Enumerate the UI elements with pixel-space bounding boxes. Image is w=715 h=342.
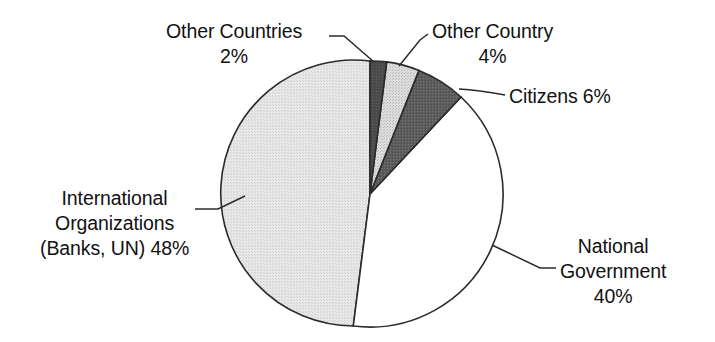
slice-label-international-organizations-line3: (Banks, UN) 48% — [40, 236, 189, 261]
slice-label-citizens: Citizens 6% — [509, 84, 611, 109]
slice-label-international-organizations: International Organizations (Banks, UN) … — [40, 186, 189, 261]
slice-label-other-countries-value: 2% — [166, 44, 302, 69]
slice-label-other-countries-name: Other Countries — [166, 19, 302, 44]
leader-line-other-country — [399, 34, 428, 66]
pie-chart-figure: Other Countries 2% Other Country 4% Citi… — [0, 0, 715, 342]
slice-label-other-country: Other Country 4% — [432, 19, 553, 69]
slice-label-other-countries: Other Countries 2% — [166, 19, 302, 69]
pie-slice-international-organizations — [221, 60, 370, 326]
slice-label-citizens-text: Citizens 6% — [509, 84, 611, 109]
leader-line-other-countries — [329, 36, 374, 62]
slice-label-other-country-name: Other Country — [432, 19, 553, 44]
slice-label-national-government: National Government 40% — [560, 234, 666, 309]
slice-label-other-country-value: 4% — [432, 44, 553, 69]
slice-label-international-organizations-line1: International — [40, 186, 189, 211]
slice-label-national-government-line1: National — [560, 234, 666, 259]
slice-label-national-government-line3: 40% — [560, 284, 666, 309]
slice-label-national-government-line2: Government — [560, 259, 666, 284]
slice-label-international-organizations-line2: Organizations — [40, 211, 189, 236]
leader-line-citizens — [459, 89, 505, 95]
leader-line-national-government — [492, 245, 556, 268]
